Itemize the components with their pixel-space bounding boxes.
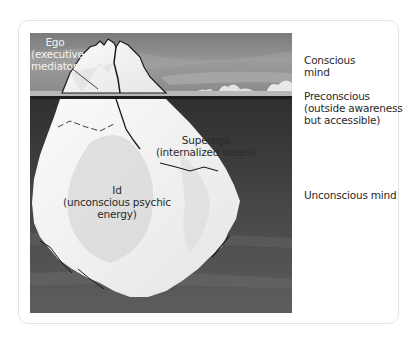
iceberg-illustration [30, 33, 292, 313]
id-label: Id (unconscious psychic energy) [58, 184, 176, 220]
superego-label: Superego (internalized ideals) [150, 134, 262, 158]
level-conscious: Conscious mind [304, 54, 355, 78]
level-unconscious: Unconscious mind [304, 189, 397, 201]
level-preconscious: Preconscious (outside awareness but acce… [304, 90, 403, 126]
ego-label: Ego (executive mediator) [31, 36, 79, 72]
